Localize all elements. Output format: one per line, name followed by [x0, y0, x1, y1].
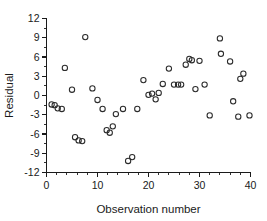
data-point [120, 106, 125, 111]
data-point [62, 65, 67, 70]
y-tick-label: 3 [34, 70, 40, 82]
data-point [90, 86, 95, 91]
axis-labels-layer: -12-9-6-3036912010203040Observation numb… [3, 12, 256, 215]
data-point [69, 87, 74, 92]
data-point [153, 97, 158, 102]
residual-scatter-figure: -12-9-6-3036912010203040Observation numb… [0, 0, 267, 221]
data-point [141, 77, 146, 82]
y-axis-title: Residual [3, 73, 15, 118]
data-point [160, 81, 165, 86]
data-points-layer [49, 34, 252, 163]
y-tick-label: -3 [30, 108, 39, 120]
data-point [207, 113, 212, 118]
y-tick-label: -6 [30, 128, 39, 140]
scatter-plot-svg: -12-9-6-3036912010203040Observation numb… [0, 0, 267, 221]
data-point [130, 154, 135, 159]
data-point [113, 111, 118, 116]
data-point [238, 76, 243, 81]
data-point [166, 66, 171, 71]
axes-layer [42, 19, 251, 178]
x-tick-label: 10 [92, 179, 104, 191]
data-point [217, 36, 222, 41]
x-tick-label: 20 [143, 179, 155, 191]
data-point [236, 114, 241, 119]
data-point [227, 59, 232, 64]
data-point [197, 58, 202, 63]
data-point [110, 124, 115, 129]
x-axis-title: Observation number [96, 203, 200, 215]
y-tick-label: 12 [28, 12, 40, 24]
y-tick-label: -12 [24, 166, 39, 178]
y-tick-label: 6 [34, 51, 40, 63]
data-point [135, 106, 140, 111]
data-point [95, 97, 100, 102]
x-tick-label: 0 [44, 179, 50, 191]
data-point [193, 86, 198, 91]
data-point [231, 99, 236, 104]
x-tick-label: 30 [194, 179, 206, 191]
data-point [156, 90, 161, 95]
data-point [80, 138, 85, 143]
data-point [183, 62, 188, 67]
data-point [83, 34, 88, 39]
y-tick-label: 0 [34, 89, 40, 101]
data-point [241, 71, 246, 76]
y-tick-label: -9 [30, 147, 39, 159]
x-tick-label: 40 [245, 179, 257, 191]
data-point [247, 113, 252, 118]
data-point [202, 82, 207, 87]
y-tick-label: 9 [34, 31, 40, 43]
data-point [100, 106, 105, 111]
data-point [218, 51, 223, 56]
